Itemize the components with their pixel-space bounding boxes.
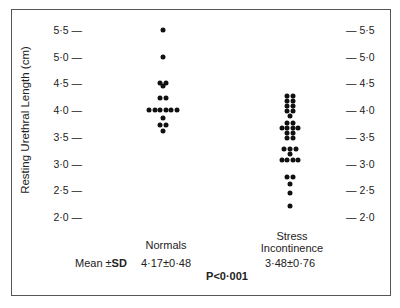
data-point — [290, 98, 295, 103]
y-tick-right: — 2·5 — [346, 184, 400, 196]
data-point — [288, 190, 293, 195]
data-point — [158, 108, 163, 113]
y-tick-left: 5·0 — — [22, 51, 82, 63]
stress-label-line1: Stress — [276, 230, 307, 242]
mean-sd-label: Mean ±SD — [75, 257, 127, 269]
y-tick-left: 5·5 — — [22, 24, 82, 36]
y-tick-left: 4·0 — — [22, 104, 82, 116]
y-tick-right: — 3·0 — [346, 158, 400, 170]
stress-label-line2: Incontinence — [261, 242, 323, 254]
y-axis-label: Resting Urethral Length (cm) — [19, 46, 31, 194]
data-point — [285, 157, 290, 162]
data-point — [163, 108, 168, 113]
data-point — [147, 108, 152, 113]
data-point — [169, 108, 174, 113]
data-point — [285, 135, 290, 140]
data-point — [288, 113, 293, 118]
data-point — [163, 122, 168, 127]
sd-text: SD — [112, 257, 127, 269]
data-point — [293, 147, 298, 152]
data-point — [161, 116, 166, 121]
data-point — [288, 204, 293, 209]
data-point — [285, 120, 290, 125]
y-tick-right: — 4·5 — [346, 77, 400, 89]
data-point — [158, 96, 163, 101]
data-point — [163, 96, 168, 101]
y-tick-right: — 5·5 — [346, 24, 400, 36]
data-point — [296, 157, 301, 162]
y-tick-right: — 5·0 — [346, 51, 400, 63]
y-tick-right: — 2·0 — [346, 211, 400, 223]
data-point — [290, 135, 295, 140]
mean-text: Mean ± — [75, 257, 112, 269]
data-point — [290, 157, 295, 162]
data-point — [285, 174, 290, 179]
data-point — [175, 108, 180, 113]
data-point — [161, 54, 166, 59]
y-tick-left: 4·5 — — [22, 77, 82, 89]
data-point — [152, 108, 157, 113]
normals-stat: 4·17±0·48 — [141, 257, 191, 269]
y-tick-left: 3·0 — — [22, 158, 82, 170]
data-point — [288, 151, 293, 156]
data-point — [161, 129, 166, 134]
y-tick-left: 2·5 — — [22, 184, 82, 196]
data-point — [161, 27, 166, 32]
data-point — [279, 157, 284, 162]
data-point — [290, 174, 295, 179]
data-point — [296, 126, 301, 131]
stress-stat: 3·48±0·76 — [265, 257, 315, 269]
y-tick-right: — 3·5 — [346, 131, 400, 143]
data-point — [158, 122, 163, 127]
data-point — [290, 120, 295, 125]
data-point — [285, 98, 290, 103]
y-tick-left: 3·5 — — [22, 131, 82, 143]
y-tick-right: — 4·0 — [346, 104, 400, 116]
data-point — [279, 126, 284, 131]
data-point — [161, 83, 166, 88]
data-point — [282, 147, 287, 152]
p-value: P<0·001 — [206, 270, 248, 282]
data-point — [288, 181, 293, 186]
y-tick-left: 2·0 — — [22, 211, 82, 223]
normals-label: Normals — [146, 239, 187, 251]
